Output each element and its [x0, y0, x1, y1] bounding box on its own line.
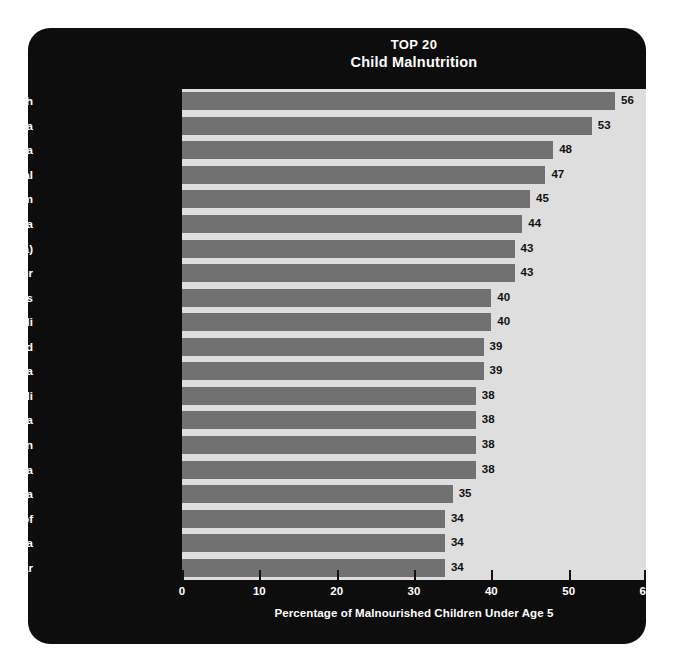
x-tick-mark	[259, 570, 261, 580]
bar-row: 38	[182, 436, 646, 454]
x-tick-label: 50	[549, 585, 589, 597]
bar-row: 38	[182, 411, 646, 429]
bar	[182, 240, 515, 258]
bar-value-label: 43	[521, 242, 534, 254]
category-label: 11. Chad	[0, 341, 33, 353]
category-label: 18. Congo, Dem. Rep. of	[0, 513, 33, 525]
category-label: 16. Sri Lanka	[0, 464, 33, 476]
bar-row: 45	[182, 190, 646, 208]
plot-area: 5653484745444343404039393838383835343434	[182, 89, 646, 580]
bar-value-label: 56	[621, 94, 634, 106]
bar	[182, 387, 476, 405]
category-label: 15. Pakistan	[0, 439, 33, 451]
bar	[182, 461, 476, 479]
chart-subtitle: Child Malnutrition	[182, 53, 646, 72]
bar-row: 34	[182, 510, 646, 528]
chart-title: TOP 20	[182, 36, 646, 53]
x-tick-mark	[644, 570, 646, 580]
category-label: 9. Laos	[0, 292, 33, 304]
bar-value-label: 34	[451, 512, 464, 524]
bar	[182, 264, 515, 282]
bar-row: 39	[182, 362, 646, 380]
bar	[182, 117, 592, 135]
x-tick-label: 10	[239, 585, 279, 597]
bar	[182, 485, 453, 503]
bar-row: 34	[182, 534, 646, 552]
bar-value-label: 44	[528, 217, 541, 229]
category-label: 2. India	[0, 120, 33, 132]
bar-value-label: 39	[490, 340, 503, 352]
category-label: 19. Indonesia	[0, 537, 33, 549]
category-label: 5. Vietnam	[0, 193, 33, 205]
category-label: 10. Mali	[0, 316, 33, 328]
x-tick-mark	[337, 570, 339, 580]
x-tick-label: 40	[471, 585, 511, 597]
bar-value-label: 53	[598, 119, 611, 131]
bar-row: 40	[182, 313, 646, 331]
category-label: 8. Niger	[0, 267, 33, 279]
category-label: 7. Myanmar (Burma)	[0, 243, 33, 255]
bar-row: 44	[182, 215, 646, 233]
category-label: 20. Madagascar	[0, 562, 33, 574]
category-label: 14. Cambodia	[0, 414, 33, 426]
bar-value-label: 48	[559, 143, 572, 155]
bar	[182, 166, 545, 184]
bar-value-label: 34	[451, 561, 464, 573]
bar	[182, 534, 445, 552]
x-tick-label: 30	[394, 585, 434, 597]
bar	[182, 510, 445, 528]
bar-row: 43	[182, 240, 646, 258]
bar-row: 40	[182, 289, 646, 307]
bar-value-label: 39	[490, 364, 503, 376]
bar-row: 35	[182, 485, 646, 503]
bar-row: 39	[182, 338, 646, 356]
bar-row: 38	[182, 461, 646, 479]
bar-value-label: 35	[459, 487, 472, 499]
bar-value-label: 38	[482, 438, 495, 450]
bar	[182, 559, 445, 577]
bar	[182, 215, 522, 233]
x-tick-mark	[569, 570, 571, 580]
bar	[182, 436, 476, 454]
bar-row: 53	[182, 117, 646, 135]
bar	[182, 190, 530, 208]
bar-value-label: 47	[551, 168, 564, 180]
x-tick-label: 60	[626, 585, 666, 597]
bar	[182, 141, 553, 159]
category-label: 4. Nepal	[0, 169, 33, 181]
category-label: 12. Nigeria	[0, 365, 33, 377]
bar-value-label: 40	[497, 291, 510, 303]
x-tick-label: 20	[317, 585, 357, 597]
category-label: 13. Burundi	[0, 390, 33, 402]
category-label: 1. Bangladesh	[0, 95, 33, 107]
bar	[182, 289, 491, 307]
category-label: 17. Angola	[0, 488, 33, 500]
x-tick-label: 0	[162, 585, 202, 597]
bar-row: 48	[182, 141, 646, 159]
x-tick-mark	[182, 570, 184, 580]
chart-title-block: TOP 20 Child Malnutrition	[182, 36, 646, 72]
bar-value-label: 34	[451, 536, 464, 548]
bar-row: 38	[182, 387, 646, 405]
x-tick-mark	[491, 570, 493, 580]
x-axis-label: Percentage of Malnourished Children Unde…	[182, 607, 646, 619]
bar-value-label: 40	[497, 315, 510, 327]
bar	[182, 411, 476, 429]
bar-value-label: 38	[482, 413, 495, 425]
bar-value-label: 38	[482, 463, 495, 475]
bar-row: 47	[182, 166, 646, 184]
chart-container: TOP 20 Child Malnutrition 56534847454443…	[0, 0, 673, 670]
bar-row: 43	[182, 264, 646, 282]
bar-value-label: 38	[482, 389, 495, 401]
bar	[182, 92, 615, 110]
bar-value-label: 43	[521, 266, 534, 278]
category-label: 6. Eritrea	[0, 218, 33, 230]
x-tick-mark	[414, 570, 416, 580]
bar-value-label: 45	[536, 192, 549, 204]
bar	[182, 313, 491, 331]
bar-row: 56	[182, 92, 646, 110]
bar	[182, 338, 484, 356]
category-label: 3. Ethiopia	[0, 144, 33, 156]
bar	[182, 362, 484, 380]
